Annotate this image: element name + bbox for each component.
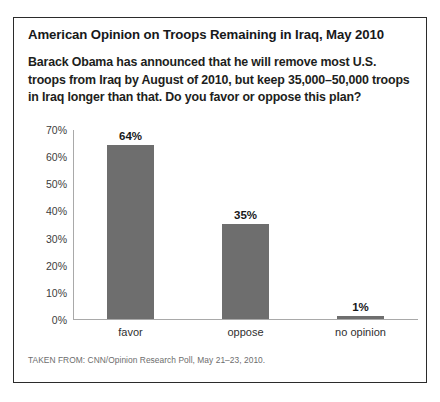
y-axis-tick-label: 20%: [46, 260, 67, 272]
bar: 64%favor: [107, 145, 154, 319]
bar-value-label: 64%: [119, 130, 142, 142]
x-axis-tick-label: favor: [118, 326, 142, 338]
source-note: TAKEN FROM: CNN/Opinion Research Poll, M…: [28, 355, 265, 365]
x-axis-line: [73, 319, 418, 320]
x-axis-tick-label: oppose: [227, 326, 263, 338]
y-axis-line: [73, 130, 74, 320]
y-axis-tick-label: 10%: [46, 287, 67, 299]
y-axis-tick-label: 30%: [46, 233, 67, 245]
page-title: American Opinion on Troops Remaining in …: [28, 27, 418, 42]
chart-figure: American Opinion on Troops Remaining in …: [13, 17, 427, 383]
chart-question-text: Barack Obama has announced that he will …: [28, 54, 416, 107]
bar-value-label: 1%: [352, 301, 369, 313]
bar-value-label: 35%: [234, 209, 257, 221]
y-axis-tick-label: 0%: [52, 314, 67, 326]
bar: 1%no opinion: [337, 316, 384, 319]
y-axis-tick-label: 70%: [46, 124, 67, 136]
y-axis-tick-label: 60%: [46, 151, 67, 163]
plot-area: 0%10%20%30%40%50%60%70%64%favor35%oppose…: [73, 130, 418, 320]
x-axis-tick-label: no opinion: [335, 326, 386, 338]
bar: 35%oppose: [222, 224, 269, 319]
y-axis-tick-label: 40%: [46, 205, 67, 217]
y-axis-tick-label: 50%: [46, 178, 67, 190]
